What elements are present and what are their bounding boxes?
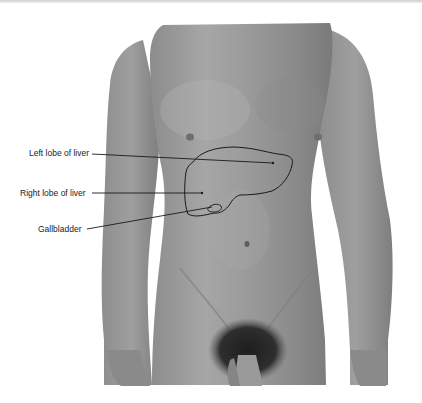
nipple-left [186, 134, 194, 141]
label-right-lobe: Right lobe of liver [20, 188, 86, 198]
label-gallbladder: Gallbladder [38, 224, 81, 234]
label-left-lobe: Left lobe of liver [29, 148, 89, 158]
navel [245, 241, 250, 247]
left-arm [102, 40, 160, 385]
nipple-right [314, 134, 322, 141]
anatomy-figure [0, 0, 422, 403]
